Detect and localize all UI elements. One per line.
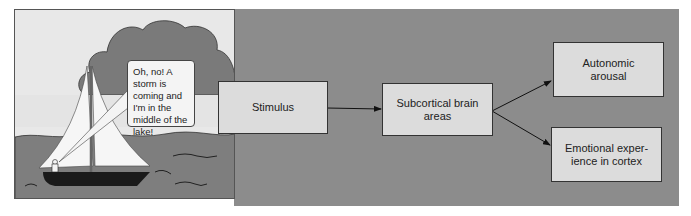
flow-arrows (0, 0, 691, 216)
subcortical-label: Subcortical brain areas (393, 97, 482, 123)
autonomic-label: Autonomic arousal (576, 57, 641, 83)
stimulus-box: Stimulus (218, 81, 328, 134)
stimulus-label: Stimulus (252, 101, 294, 114)
arrow-subcortical-to-emotional (492, 111, 550, 145)
arrow-stimulus-to-subcortical (327, 108, 381, 109)
arrow-subcortical-to-autonomic (492, 81, 551, 111)
subcortical-box: Subcortical brain areas (382, 83, 493, 136)
emotional-box: Emotional exper- ience in cortex (551, 127, 662, 182)
autonomic-box: Autonomic arousal (553, 42, 664, 97)
emotional-label: Emotional exper- ience in cortex (564, 142, 649, 168)
